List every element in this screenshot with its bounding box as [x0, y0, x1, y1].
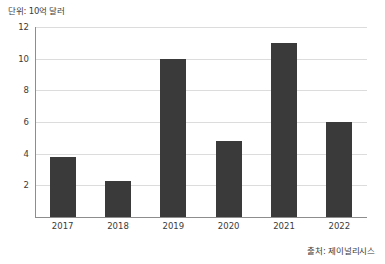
y-tick-label: 6	[24, 117, 29, 127]
y-tick-label: 4	[24, 149, 29, 159]
bar[interactable]	[160, 59, 186, 217]
x-tick-label: 2017	[52, 221, 74, 231]
bars-layer	[35, 27, 367, 217]
y-tick-label: 2	[24, 180, 29, 190]
unit-caption: 단위: 10억 달러	[8, 4, 65, 16]
x-tick-label: 2022	[329, 221, 351, 231]
bar[interactable]	[326, 122, 352, 217]
bar[interactable]	[271, 43, 297, 217]
x-tick-label: 2020	[218, 221, 240, 231]
x-axis-line	[35, 217, 367, 218]
bar[interactable]	[216, 141, 242, 217]
bar[interactable]	[50, 157, 76, 217]
x-tick-label: 2019	[163, 221, 185, 231]
y-tick-label: 8	[24, 85, 29, 95]
bar-slot	[201, 27, 256, 217]
bar-chart-figure: 단위: 10억 달러 24681012 20172018201920202021…	[0, 0, 385, 264]
bar-slot	[90, 27, 145, 217]
source-note: 출처: 제이널리시스	[307, 244, 375, 256]
bar-slot	[256, 27, 311, 217]
y-tick-label: 12	[18, 22, 29, 32]
bar-slot	[35, 27, 90, 217]
x-axis-labels: 201720182019202020212022	[35, 221, 367, 237]
y-tick-label: 10	[18, 54, 29, 64]
bar-slot	[146, 27, 201, 217]
y-axis-labels: 24681012	[0, 27, 29, 217]
bar-slot	[312, 27, 367, 217]
x-tick-label: 2018	[107, 221, 129, 231]
bar[interactable]	[105, 181, 131, 217]
x-tick-label: 2021	[273, 221, 295, 231]
